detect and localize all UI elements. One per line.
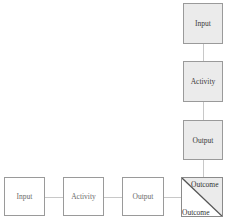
vertical-input-label: Input <box>195 19 211 28</box>
outcome-box: Outcome Outcome <box>181 177 223 217</box>
vertical-connector-activity-output <box>203 102 204 120</box>
horizontal-activity-label: Activity <box>71 192 96 201</box>
logic-model-diagram: Input Activity Output Input Activity Out… <box>0 0 229 219</box>
horizontal-connector-input-activity <box>45 197 63 198</box>
vertical-output-label: Output <box>193 136 214 145</box>
vertical-connector-input-activity <box>203 44 204 61</box>
outcome-bottom-left-label: Outcome <box>182 209 210 217</box>
horizontal-connector-output-outcome <box>164 197 181 198</box>
horizontal-input-box: Input <box>4 177 45 216</box>
vertical-activity-box: Activity <box>183 61 223 102</box>
vertical-connector-output-outcome <box>203 160 204 177</box>
vertical-output-box: Output <box>183 120 223 160</box>
vertical-input-box: Input <box>183 3 223 44</box>
horizontal-output-box: Output <box>122 177 164 216</box>
horizontal-connector-activity-output <box>104 197 122 198</box>
vertical-activity-label: Activity <box>191 77 216 86</box>
outcome-top-right-label: Outcome <box>191 181 219 189</box>
horizontal-input-label: Input <box>17 192 33 201</box>
horizontal-output-label: Output <box>133 192 154 201</box>
horizontal-activity-box: Activity <box>63 177 104 216</box>
